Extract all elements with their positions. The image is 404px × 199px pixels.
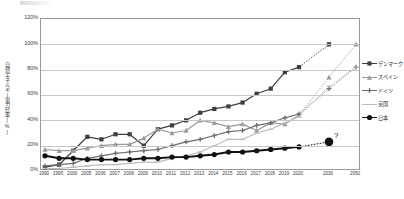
legend-marker-icon bbox=[362, 73, 377, 82]
x-tick-label: 1995 bbox=[53, 171, 63, 176]
x-tick-label: 2018 bbox=[265, 171, 275, 176]
legend-marker-icon bbox=[362, 86, 377, 95]
legend-marker-icon bbox=[362, 100, 377, 109]
legend-item-デンマーク: デンマーク bbox=[362, 57, 404, 71]
gridline-80 bbox=[41, 70, 359, 71]
y-tick-label: 0% bbox=[12, 167, 38, 172]
x-tick-label: 2015 bbox=[222, 171, 232, 176]
x-tick-label: 2014 bbox=[208, 171, 218, 176]
legend-item-日本: 日本 bbox=[362, 111, 404, 125]
gridline-20 bbox=[41, 146, 359, 147]
legend-item-スペイン: スペイン bbox=[362, 71, 404, 85]
y-tick-label: 120% bbox=[12, 15, 38, 20]
x-tick-label: 2010 bbox=[152, 171, 162, 176]
legend-item-ドイツ: ドイツ bbox=[362, 84, 404, 98]
x-tick-label: 2017 bbox=[251, 171, 261, 176]
legend-label: 日本 bbox=[377, 115, 388, 121]
japan-question-annotation: ? bbox=[334, 132, 338, 140]
x-tick-label: 2013 bbox=[194, 171, 204, 176]
x-tick-label: 2006 bbox=[95, 171, 105, 176]
x-tick-label: 2030 bbox=[323, 171, 333, 176]
x-tick-label: 2009 bbox=[138, 171, 148, 176]
legend-label: スペイン bbox=[377, 74, 398, 80]
x-axis-tick-labels: 1990199520002005200620072008200920102011… bbox=[40, 171, 360, 185]
x-tick-label: 1990 bbox=[39, 171, 49, 176]
y-tick-label: 60% bbox=[12, 91, 38, 96]
gridline-40 bbox=[41, 120, 359, 121]
legend: デンマークスペインドイツ英国日本 bbox=[362, 57, 404, 125]
y-tick-label: 80% bbox=[12, 66, 38, 71]
legend-label: 英国 bbox=[377, 101, 388, 107]
series-ドイツ bbox=[43, 65, 359, 169]
x-tick-label: 2020 bbox=[293, 171, 303, 176]
x-tick-label: 2050 bbox=[350, 171, 360, 176]
legend-label: ドイツ bbox=[377, 88, 393, 94]
x-tick-label: 2019 bbox=[279, 171, 289, 176]
x-tick-label: 2008 bbox=[124, 171, 134, 176]
series-スペイン bbox=[42, 42, 358, 153]
legend-marker-icon bbox=[362, 59, 377, 68]
gridline-60 bbox=[41, 95, 359, 96]
plot-area bbox=[40, 18, 360, 170]
legend-item-英国: 英国 bbox=[362, 98, 404, 112]
y-axis-tick-labels: 0%20%40%60%80%100%120% bbox=[8, 0, 38, 199]
legend-marker-icon bbox=[362, 113, 377, 122]
legend-label: デンマーク bbox=[377, 61, 403, 67]
y-tick-label: 100% bbox=[12, 41, 38, 46]
x-tick-label: 2000 bbox=[67, 171, 77, 176]
x-tick-label: 2007 bbox=[109, 171, 119, 176]
x-tick-label: 2011 bbox=[166, 171, 176, 176]
x-tick-label: 2012 bbox=[180, 171, 190, 176]
y-tick-label: 40% bbox=[12, 117, 38, 122]
x-tick-label: 2005 bbox=[81, 171, 91, 176]
chart-figure: 自然エネルギー電力比率(%) 0%20%40%60%80%100%120% 19… bbox=[0, 0, 404, 199]
gridline-100 bbox=[41, 44, 359, 45]
x-tick-label: 2016 bbox=[236, 171, 246, 176]
y-tick-label: 20% bbox=[12, 142, 38, 147]
